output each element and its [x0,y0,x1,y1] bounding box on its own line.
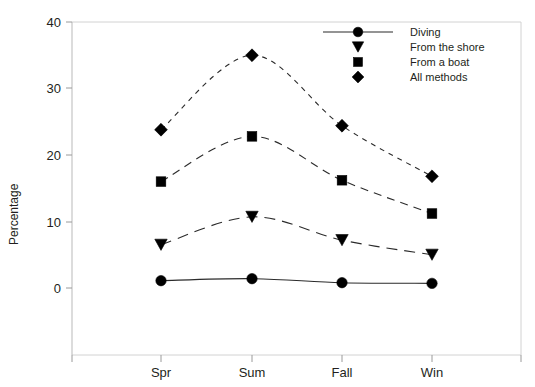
data-point [156,177,166,187]
chart-legend: Diving From the shore From a boat All me… [323,26,485,83]
legend-marker-circle [353,27,363,37]
y-tick-label-0: 0 [54,281,61,296]
data-point [156,275,166,285]
legend-label-diving: Diving [410,26,441,38]
series-layer [155,49,439,289]
data-point [336,235,348,246]
data-point [426,249,438,260]
legend-markers [352,27,364,83]
legend-marker-square [354,58,363,67]
data-point [426,170,439,183]
y-tick-label-30: 30 [47,81,61,96]
line-chart: 40 30 20 10 0 Percentage Spr Sum Fall Wi… [0,0,535,387]
data-point [155,239,167,250]
x-tick-label-win: Win [421,365,443,380]
series-from-the-shore [155,211,438,260]
data-point [246,49,259,62]
data-point [427,209,437,219]
data-point [427,278,437,288]
y-tick-label-20: 20 [47,148,61,163]
chart-canvas: 40 30 20 10 0 Percentage Spr Sum Fall Wi… [0,0,535,387]
x-axis [72,355,521,362]
legend-label-boat: From a boat [410,56,469,68]
series-line [161,136,432,213]
series-line [161,55,432,176]
legend-marker-triangle-down [352,42,363,52]
y-tick-label-10: 10 [47,215,61,230]
x-tick-label-fall: Fall [332,365,353,380]
legend-label-all: All methods [410,71,468,83]
series-from-a-boat [156,132,437,219]
legend-marker-diamond [352,71,364,83]
x-tick-label-sum: Sum [239,365,266,380]
x-tick-label-spr: Spr [151,365,172,380]
series-all-methods [155,49,439,183]
data-point [247,273,257,283]
data-point [337,277,347,287]
data-point [247,132,257,142]
series-line [161,279,432,284]
data-point [336,119,349,132]
y-axis [66,22,72,355]
series-diving [156,273,437,288]
series-line [161,217,432,255]
data-point [337,175,347,185]
data-point [155,123,168,136]
y-tick-label-40: 40 [47,15,61,30]
y-axis-title: Percentage [7,183,21,245]
legend-label-shore: From the shore [410,41,485,53]
